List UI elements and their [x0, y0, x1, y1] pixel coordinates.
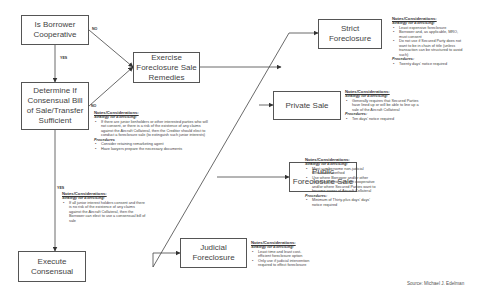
note-item: If all junior interest holders consent a… — [69, 201, 146, 224]
note-item: Have lawyers prepare the necessary docum… — [101, 147, 209, 152]
note-item: Borrower and, as applicable, MRO, must c… — [399, 30, 464, 39]
notes-consensual: Notes/Considerations: Strategy for Exerc… — [62, 191, 146, 223]
notes-private: Notes/Considerations: Strategy for Exerc… — [345, 89, 419, 121]
box-determine-consensual: Determine If Consensual Bill of Sale/Tra… — [21, 82, 89, 130]
edge-label-determine-yes: YES — [57, 186, 64, 190]
note-item: Minimum of Thirty-plus days' days' notic… — [312, 198, 377, 207]
source-credit: Source: Michael J. Edelman — [407, 281, 464, 286]
note-item: Twenty days' notice required — [399, 62, 464, 67]
note-item: Use where Borrower and/or other interest… — [312, 176, 377, 194]
note-item: If there are junior lienholders or other… — [101, 120, 209, 138]
box-judicial-foreclosure: Judicial Foreclosure — [180, 238, 247, 268]
box-is-borrower-cooperative: Is Borrower Cooperative — [21, 15, 89, 45]
box-execute-consensual: Execute Consensual — [18, 251, 86, 282]
note-item: Least time and least cost-efficient fore… — [258, 250, 313, 259]
notes-judicial: Notes/Considerations: Strategy for Exerc… — [251, 240, 313, 268]
note-item: Ten days' notice required — [352, 117, 419, 122]
note-item: Do not use if Secured Party does not wan… — [399, 39, 464, 57]
notes-public: Notes/Considerations: Strategy for Exerc… — [305, 157, 377, 207]
box-strict-foreclosure: Strict Foreclosure — [318, 19, 382, 49]
note-item: Only use if judicial intervention requir… — [258, 259, 313, 268]
note-item: Generally requires that Secured Parties … — [352, 99, 419, 113]
edge-label-borrower-yes: YES — [60, 56, 67, 60]
notes-strict: Notes/Considerations: Strategy for Exerc… — [392, 16, 464, 66]
notes-exercise: Notes/Considerations: Strategy for Exerc… — [94, 110, 209, 151]
edge-label-determine-no: NO — [91, 104, 96, 108]
note-item: Most cumbersome non-judicial foreclosure… — [312, 167, 377, 176]
box-exercise-remedies: Exercise Foreclosure Sale Remedies — [133, 52, 200, 83]
box-private-sale: Private Sale — [273, 91, 341, 120]
edge-label-borrower-no: NO — [92, 27, 97, 31]
